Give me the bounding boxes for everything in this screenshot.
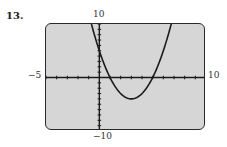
ymin-label: −10: [93, 131, 112, 141]
function-plot: [46, 24, 205, 130]
xmin-label: −5: [28, 70, 41, 80]
ymax-label: 10: [93, 9, 104, 19]
calculator-screen: [45, 23, 205, 130]
xmax-label: 10: [208, 70, 219, 80]
parabola-curve: [89, 24, 174, 99]
problem-number: 13.: [6, 10, 23, 21]
